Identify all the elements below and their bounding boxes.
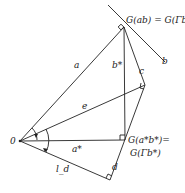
segment-b-star — [124, 27, 125, 140]
label-top: G(ab) = G(Γb) — [126, 15, 185, 25]
label-l-d: l_d — [56, 164, 69, 175]
label-b-star: b* — [112, 60, 123, 70]
label-d: d — [112, 162, 118, 172]
right-angle-mid — [120, 135, 125, 140]
segment-c — [124, 27, 145, 85]
segment-a — [20, 27, 124, 141]
label-a-star: a* — [72, 144, 82, 154]
label-mid-1: G(a*b*)= — [128, 135, 170, 145]
angle-arc-1 — [32, 128, 36, 134]
right-angle-top — [118, 24, 124, 30]
segment-a-star — [20, 140, 125, 141]
label-e: e — [82, 101, 87, 111]
segment-e — [20, 85, 145, 141]
origin-point — [19, 140, 22, 143]
label-a: a — [74, 60, 79, 70]
segment-l-d — [20, 141, 110, 180]
label-b: b — [162, 56, 168, 66]
label-mid-2: G(Γb*) — [130, 148, 161, 158]
geometry-diagram: G(ab) = G(Γb) b a b* c e a* d l_d 0 G(a*… — [0, 0, 185, 193]
arrow-head-1 — [34, 134, 38, 138]
label-c: c — [139, 66, 144, 76]
line-b — [108, 5, 165, 62]
label-origin: 0 — [10, 136, 16, 146]
